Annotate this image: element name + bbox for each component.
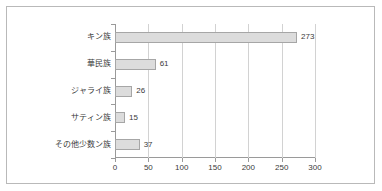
x-axis-tick bbox=[248, 158, 249, 162]
y-axis-tick bbox=[111, 158, 115, 159]
bar-value-label: 15 bbox=[129, 113, 138, 123]
x-axis-tick-label: 300 bbox=[308, 163, 321, 173]
x-axis-tick bbox=[182, 158, 183, 162]
x-axis-tick-label: 150 bbox=[208, 163, 221, 173]
gridline bbox=[215, 24, 216, 158]
x-axis-tick-label: 200 bbox=[242, 163, 255, 173]
chart-frame: キン族華民族ジャライ族サティン族その他少数ン族 27361261537 0501… bbox=[6, 6, 375, 184]
x-axis-tick-label: 0 bbox=[113, 163, 117, 173]
gridline bbox=[282, 24, 283, 158]
x-axis-tick-label: 50 bbox=[144, 163, 153, 173]
bar bbox=[115, 59, 156, 70]
x-axis-tick bbox=[148, 158, 149, 162]
x-axis-tick bbox=[115, 158, 116, 162]
category-axis-labels: キン族華民族ジャライ族サティン族その他少数ン族 bbox=[17, 24, 111, 158]
bar-value-label: 26 bbox=[136, 86, 145, 96]
gridline bbox=[248, 24, 249, 158]
y-axis-tick bbox=[111, 131, 115, 132]
plot-area: 27361261537 050100150200250300 bbox=[115, 24, 315, 158]
y-axis-tick bbox=[111, 24, 115, 25]
gridline bbox=[182, 24, 183, 158]
gridline bbox=[148, 24, 149, 158]
bar bbox=[115, 112, 125, 123]
x-axis-tick bbox=[215, 158, 216, 162]
bar bbox=[115, 139, 140, 150]
x-axis-tick bbox=[315, 158, 316, 162]
category-label: ジャライ族 bbox=[71, 86, 111, 96]
y-axis-tick bbox=[111, 104, 115, 105]
bar bbox=[115, 32, 297, 43]
x-axis-tick-label: 100 bbox=[175, 163, 188, 173]
gridline bbox=[315, 24, 316, 158]
category-label: その他少数ン族 bbox=[55, 140, 111, 150]
chart-screenshot: キン族華民族ジャライ族サティン族その他少数ン族 27361261537 0501… bbox=[0, 0, 382, 191]
y-axis-tick bbox=[111, 51, 115, 52]
bar-value-label: 61 bbox=[160, 59, 169, 69]
y-axis-tick bbox=[111, 78, 115, 79]
category-label: 華民族 bbox=[87, 59, 111, 69]
x-axis-tick bbox=[282, 158, 283, 162]
category-label: サティン族 bbox=[71, 113, 111, 123]
category-label: キン族 bbox=[87, 32, 111, 42]
bar-value-label: 273 bbox=[301, 32, 314, 42]
bar-value-label: 37 bbox=[144, 140, 153, 150]
x-axis-tick-label: 250 bbox=[275, 163, 288, 173]
bar bbox=[115, 86, 132, 97]
